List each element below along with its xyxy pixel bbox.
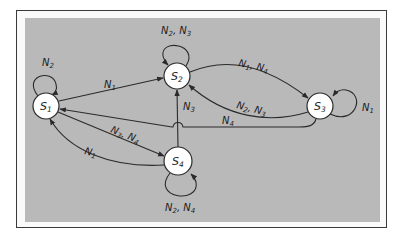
label-s3-self: N1 (362, 102, 374, 115)
edge-s3-self-n1 (330, 90, 357, 117)
label-s1-s4: N3, N4 (109, 124, 142, 147)
edge-s4-self-n2-n4 (165, 173, 196, 196)
label-s4-s1: N1 (83, 145, 98, 161)
state-diagram: S1 S2 S3 S4 N2 N1 N3, N4 N2, N3 N1, N4 N… (0, 0, 403, 238)
edge-s4-to-s1-n1 (50, 119, 164, 165)
label-s2-self: N2, N3 (161, 25, 191, 38)
label-s3-s1: N4 (222, 115, 234, 128)
state-s2: S2 (164, 63, 190, 89)
label-s2-s3: N1, N4 (237, 57, 269, 76)
label-s4-s2: N3 (183, 101, 195, 114)
state-s3: S3 (307, 93, 333, 119)
edge-s4-to-s2-n3 (177, 90, 178, 147)
state-s4: S4 (164, 147, 192, 175)
label-s4-self: N2, N4 (165, 202, 195, 215)
label-s1-self: N2 (42, 57, 54, 70)
state-s1: S1 (33, 93, 59, 119)
